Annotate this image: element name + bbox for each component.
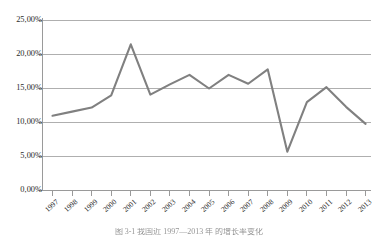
y-tick-label-25: 25,00% — [0, 16, 42, 24]
y-tick-label-5: 5,00% — [0, 152, 42, 160]
x-axis-ticks — [53, 191, 366, 196]
y-axis-ticks — [38, 21, 43, 191]
chart-plot-area: 25,00% 20,00% 15,00% 10,00% 5,00% 0,00% … — [0, 0, 378, 212]
y-tick-label-10: 10,00% — [0, 118, 42, 126]
y-tick-label-20: 20,00% — [0, 50, 42, 58]
y-tick-label-15: 15,00% — [0, 84, 42, 92]
gridlines — [42, 21, 371, 157]
figure-caption: 图 3-1 我国近 1997—2013 年 的增长率变化 — [0, 228, 378, 237]
chart-svg — [0, 0, 378, 212]
y-tick-label-0: 0,00% — [0, 186, 42, 194]
figure: 25,00% 20,00% 15,00% 10,00% 5,00% 0,00% … — [0, 0, 378, 237]
data-series-line — [53, 44, 366, 151]
